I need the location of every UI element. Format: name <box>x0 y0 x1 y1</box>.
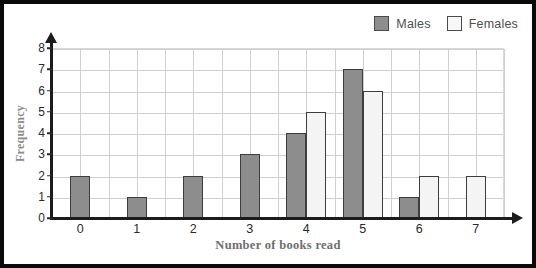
gridline-vertical <box>165 49 166 218</box>
gridline-vertical <box>109 49 110 218</box>
females-swatch-icon <box>447 16 462 31</box>
bar-males-6[interactable] <box>399 197 419 218</box>
x-tick-label: 2 <box>190 222 197 236</box>
x-axis-arrow-icon <box>512 212 523 224</box>
bar-females-6[interactable] <box>419 176 439 219</box>
x-tick-label: 0 <box>77 222 84 236</box>
y-axis-title: Frequency <box>12 48 30 218</box>
x-tick-label: 4 <box>303 222 310 236</box>
gridline-vertical <box>222 49 223 218</box>
y-tick-mark <box>47 196 52 198</box>
legend-entry-males[interactable]: Males <box>374 16 430 31</box>
y-tick-mark <box>47 90 52 92</box>
bar-males-1[interactable] <box>127 197 147 218</box>
y-axis-title-text: Frequency <box>14 104 29 161</box>
bar-females-7[interactable] <box>466 176 486 219</box>
gridline-vertical <box>137 49 138 218</box>
gridline-vertical <box>391 49 392 218</box>
y-tick-mark <box>47 47 52 49</box>
x-tick-label: 5 <box>359 222 366 236</box>
bar-females-4[interactable] <box>306 112 326 218</box>
legend-label-males: Males <box>396 17 430 31</box>
x-tick-label: 7 <box>472 222 479 236</box>
gridline-vertical <box>504 49 505 218</box>
bar-females-5[interactable] <box>363 91 383 219</box>
x-tick-label: 1 <box>133 222 140 236</box>
gridline-vertical <box>278 49 279 218</box>
y-tick-mark <box>47 111 52 113</box>
chart-figure: Males Females 012345678 01234567 Number … <box>0 0 536 268</box>
x-tick-label: 3 <box>246 222 253 236</box>
chart-legend: Males Females <box>374 16 518 31</box>
legend-label-females: Females <box>469 17 518 31</box>
gridline-vertical <box>335 49 336 218</box>
males-swatch-icon <box>374 16 389 31</box>
bar-males-5[interactable] <box>343 69 363 218</box>
x-axis-line <box>50 217 514 220</box>
bar-males-4[interactable] <box>286 133 306 218</box>
y-tick-mark <box>47 217 52 219</box>
x-axis-title: Number of books read <box>52 238 504 253</box>
bar-males-3[interactable] <box>240 154 260 218</box>
y-tick-mark <box>47 175 52 177</box>
x-tick-label: 6 <box>416 222 423 236</box>
y-tick-mark <box>47 132 52 134</box>
plot-area <box>52 48 504 218</box>
gridline-vertical <box>448 49 449 218</box>
bar-males-0[interactable] <box>70 176 90 219</box>
bar-males-2[interactable] <box>183 176 203 219</box>
figure-background: Males Females 012345678 01234567 Number … <box>4 4 532 264</box>
y-tick-mark <box>47 154 52 156</box>
legend-entry-females[interactable]: Females <box>447 16 518 31</box>
y-tick-mark <box>47 69 52 71</box>
